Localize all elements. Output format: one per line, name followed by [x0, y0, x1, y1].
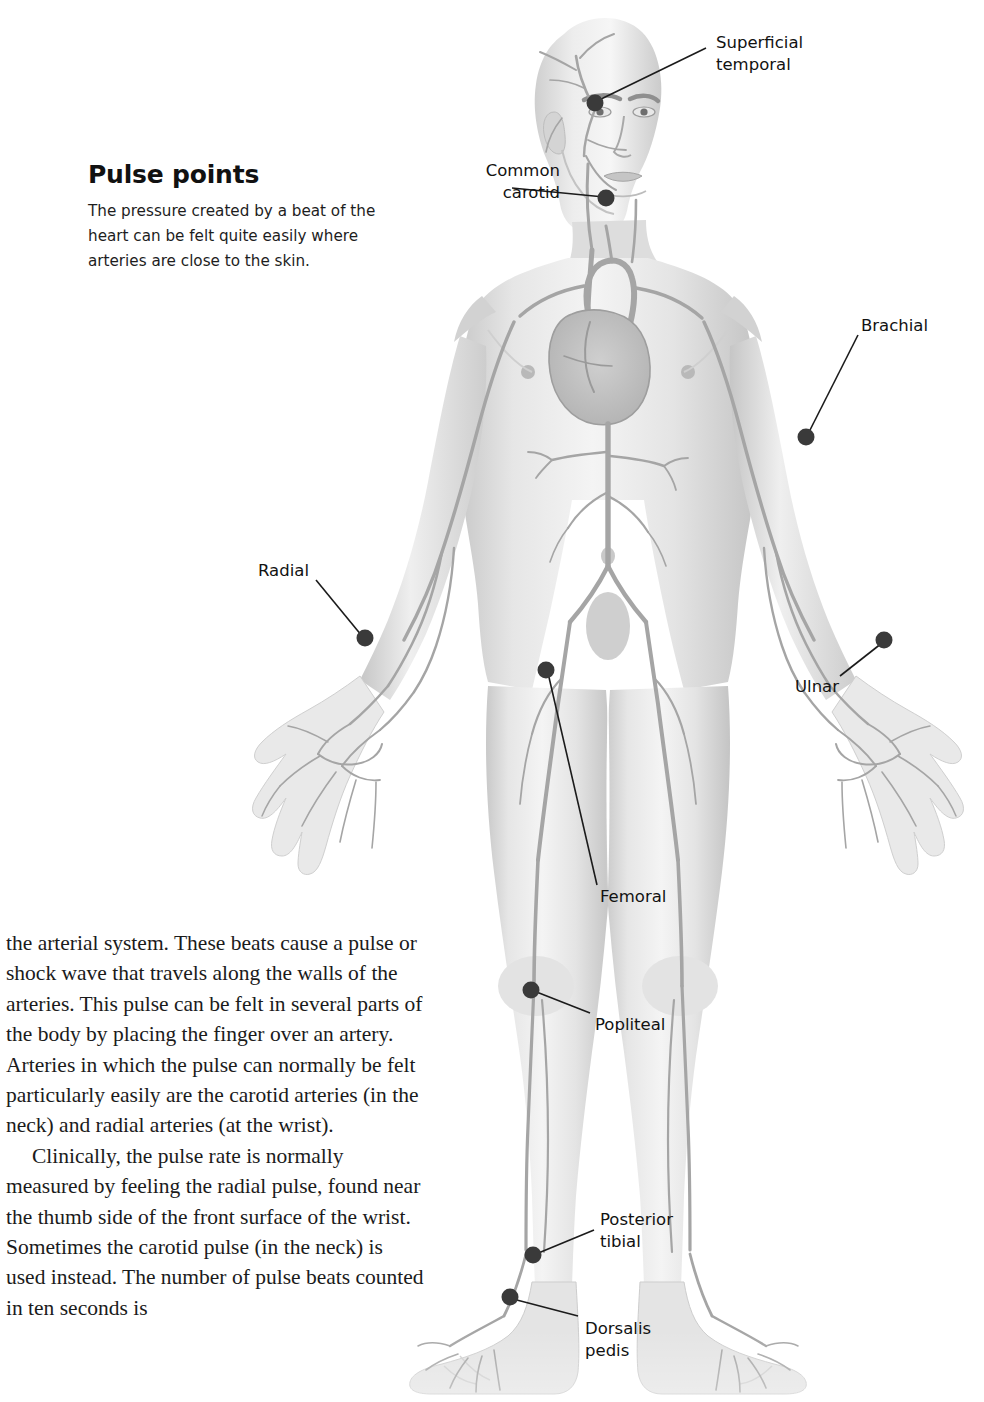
body-paragraph-1: the arterial system. These beats cause a… — [6, 928, 426, 1141]
label-common-carotid: Common carotid — [440, 160, 560, 204]
head-group — [535, 18, 662, 268]
page-root: Pulse points The pressure created by a b… — [0, 0, 984, 1402]
label-femoral: Femoral — [600, 886, 666, 908]
body-copy: the arterial system. These beats cause a… — [6, 928, 426, 1323]
label-popliteal: Popliteal — [595, 1014, 665, 1036]
pupil-right — [640, 108, 647, 115]
callout-block: Pulse points The pressure created by a b… — [88, 160, 388, 274]
page-title: Pulse points — [88, 160, 388, 189]
genital-shape — [586, 592, 630, 660]
callout-body: The pressure created by a beat of the he… — [88, 199, 388, 274]
label-brachial: Brachial — [861, 315, 928, 337]
label-superficial-temporal: Superficial temporal — [716, 32, 803, 76]
body-paragraph-2: Clinically, the pulse rate is normally m… — [6, 1141, 426, 1323]
pupil-left — [596, 108, 603, 115]
label-ulnar: Ulnar — [795, 676, 839, 698]
label-radial: Radial — [258, 560, 309, 582]
hand-right — [832, 676, 963, 875]
hand-left — [253, 676, 384, 875]
label-posterior-tibial: Posterior tibial — [600, 1209, 673, 1253]
label-dorsalis-pedis: Dorsalis pedis — [585, 1318, 651, 1362]
